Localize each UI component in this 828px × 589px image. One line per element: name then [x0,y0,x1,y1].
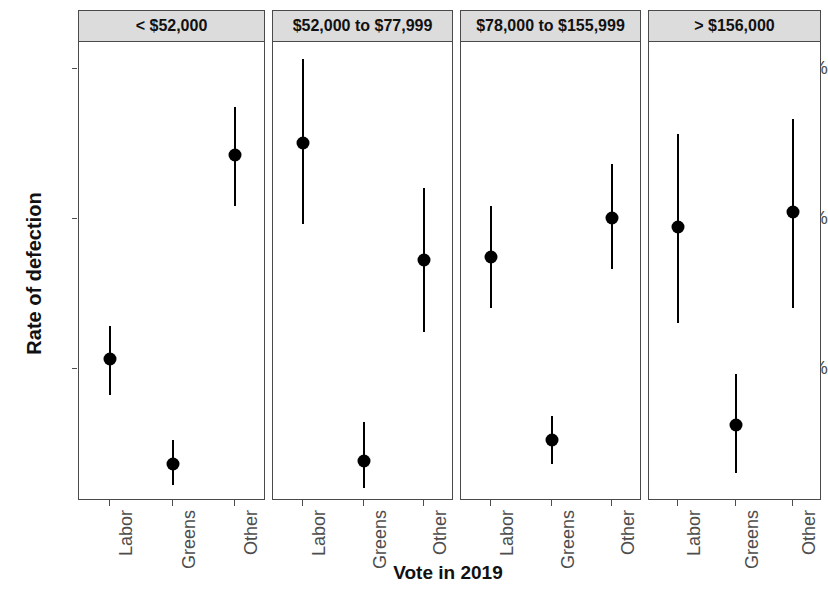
x-tick-mark [423,500,424,506]
x-tick-mark [551,500,552,506]
chart-figure: Rate of defection 15%10%5% LaborGreensOt… [0,0,828,589]
x-tick-mark [611,500,612,506]
x-category-label: Greens [742,510,763,569]
panel-strip-label: $52,000 to $77,999 [272,10,453,42]
x-category-label: Other [618,510,639,555]
panel-plot-area [460,42,641,500]
x-tick-mark [109,500,110,506]
x-category-label: Labor [116,510,137,556]
x-category-label: Labor [309,510,330,556]
y-axis-title: Rate of defection [23,124,46,424]
x-tick-mark [172,500,173,506]
data-point [605,212,618,225]
data-point [166,458,179,471]
x-category-label: Greens [179,510,200,569]
facet-panel: > $156,000 [648,10,821,500]
y-tick-mark [72,68,77,69]
facet-panel: $52,000 to $77,999 [272,10,453,500]
data-point [357,455,370,468]
data-point [485,251,498,264]
data-point [545,434,558,447]
data-point [417,254,430,267]
panel-strip-label: $78,000 to $155,999 [460,10,641,42]
x-category-label: Labor [497,510,518,556]
x-category-label: Labor [684,510,705,556]
y-tick-mark [72,218,77,219]
x-tick-mark [363,500,364,506]
panel-plot-area [78,42,265,500]
y-tick-mark [72,368,77,369]
data-point [104,353,117,366]
data-point [297,137,310,150]
x-tick-mark [302,500,303,506]
facet-panel: < $52,000 [78,10,265,500]
data-point [228,149,241,162]
facet-panel: $78,000 to $155,999 [460,10,641,500]
x-category-label: Greens [558,510,579,569]
x-tick-mark [735,500,736,506]
x-category-label: Other [241,510,262,555]
data-point [729,419,742,432]
x-axis-title: Vote in 2019 [78,562,818,584]
x-tick-mark [677,500,678,506]
panel-plot-area [648,42,821,500]
x-tick-mark [792,500,793,506]
panel-strip-label: > $156,000 [648,10,821,42]
panel-plot-area [272,42,453,500]
x-category-label: Greens [370,510,391,569]
data-point [671,221,684,234]
x-tick-mark [490,500,491,506]
data-point [787,206,800,219]
x-category-label: Other [430,510,451,555]
panel-strip-label: < $52,000 [78,10,265,42]
x-tick-mark [234,500,235,506]
x-category-label: Other [799,510,820,555]
